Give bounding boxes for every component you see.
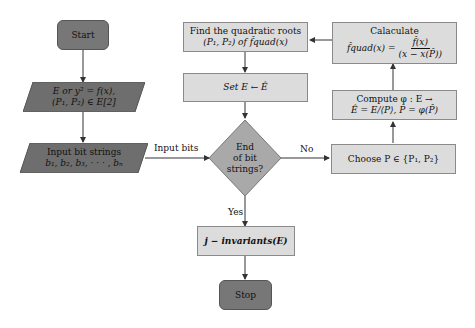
compute-phi-line2: Ê = E/⟨P⟩, P̂ = φ(P̂) — [351, 105, 438, 116]
calculate-process: Calaculate f̂quad(x) = f̂(x) (x − x(P̂)) — [332, 22, 457, 64]
edge-label-yes: Yes — [228, 207, 243, 217]
decision-line3: strings? — [227, 164, 263, 175]
input-curve-line2: (P₁, P₂) ∈ E[2] — [52, 97, 116, 108]
set-e-process: Set E ← Ê — [183, 73, 308, 102]
calculate-lhs: f̂quad(x) = — [347, 43, 396, 54]
set-e-label: Set E ← Ê — [223, 82, 267, 93]
calculate-line1: Calaculate — [370, 26, 419, 37]
end-of-bits-decision: End of bit strings? — [209, 120, 281, 196]
edge-label-no: No — [300, 144, 313, 154]
choose-p-process: Choose P ∈ {P₁, P₂} — [331, 144, 456, 174]
stop-terminal: Stop — [219, 280, 272, 310]
edge-label-input-bits: Input bits — [154, 143, 198, 153]
input-bits-line1: Input bit strings — [47, 147, 121, 158]
input-curve-line1: E or y² = f(x), — [53, 86, 115, 97]
decision-line2: of bit — [233, 153, 257, 164]
find-roots-process: Find the quadratic roots (P₁, P₂) of f̂q… — [183, 22, 308, 52]
calculate-denominator: (x − x(P̂)) — [399, 49, 443, 60]
input-bits-line2: b₁, b₂, b₃, · · · , bₙ — [45, 158, 123, 169]
decision-line1: End — [236, 142, 254, 153]
input-curve-io: E or y² = f(x), (P₁, P₂) ∈ E[2] — [23, 82, 145, 112]
calculate-formula: f̂quad(x) = f̂(x) (x − x(P̂)) — [347, 37, 442, 60]
j-invariants-process: j − invariants(E) — [197, 226, 295, 256]
start-terminal: Start — [57, 20, 109, 50]
find-roots-line1: Find the quadratic roots — [190, 26, 301, 37]
j-invariants-label: j − invariants(E) — [204, 236, 287, 247]
calculate-numerator: f̂(x) — [411, 37, 430, 49]
compute-phi-line1: Compute φ : E → — [356, 94, 432, 105]
choose-p-label: Choose P ∈ {P₁, P₂} — [348, 154, 439, 165]
start-label: Start — [71, 30, 94, 41]
input-bits-io: Input bit strings b₁, b₂, b₃, · · · , bₙ — [20, 143, 148, 173]
calculate-fraction: f̂(x) (x − x(P̂)) — [399, 37, 443, 60]
compute-phi-process: Compute φ : E → Ê = E/⟨P⟩, P̂ = φ(P̂) — [332, 90, 457, 120]
find-roots-line2: (P₁, P₂) of f̂quad(x) — [203, 37, 288, 48]
stop-label: Stop — [235, 290, 256, 301]
